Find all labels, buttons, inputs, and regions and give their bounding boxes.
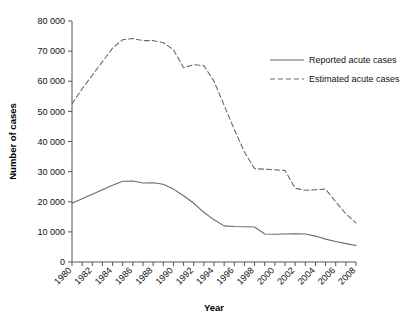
x-axis-tick-label: 1998 [235, 265, 256, 286]
y-axis-tick-label: 0 [60, 257, 65, 267]
x-axis-tick-label: 2000 [255, 265, 276, 286]
legend-label-0: Reported acute cases [309, 55, 397, 65]
y-axis-tick-label: 70 000 [37, 46, 65, 56]
x-axis-tick-label: 1994 [194, 265, 215, 286]
chart-container: 010 00020 00030 00040 00050 00060 00070 … [0, 0, 416, 321]
series-line-estimated [72, 38, 356, 222]
y-axis-tick-label: 20 000 [37, 197, 65, 207]
y-axis-tick-label: 80 000 [37, 16, 65, 26]
y-axis-tick-label: 10 000 [37, 227, 65, 237]
x-axis-tick-label: 1986 [113, 265, 134, 286]
x-axis-tick-label: 2002 [275, 265, 296, 286]
x-axis-tick-label: 1982 [72, 265, 93, 286]
y-axis-tick-label: 60 000 [37, 76, 65, 86]
series-line-reported [72, 181, 356, 245]
x-axis-tick-label: 1980 [52, 265, 73, 286]
y-axis-tick-label: 30 000 [37, 167, 65, 177]
x-axis-tick-label: 1988 [133, 265, 154, 286]
x-axis-title: Year [204, 302, 224, 313]
legend-label-1: Estimated acute cases [309, 74, 400, 84]
y-axis-tick-label: 50 000 [37, 107, 65, 117]
x-axis-tick-label: 2004 [296, 265, 317, 286]
line-chart: 010 00020 00030 00040 00050 00060 00070 … [0, 0, 416, 321]
y-axis-title: Number of cases [7, 103, 18, 180]
x-axis-tick-label: 2006 [316, 265, 337, 286]
x-axis-tick-label: 1984 [93, 265, 114, 286]
x-axis-tick-label: 1992 [174, 265, 195, 286]
x-axis-tick-label: 1996 [214, 265, 235, 286]
y-axis-tick-label: 40 000 [37, 137, 65, 147]
x-axis-tick-label: 2008 [336, 265, 357, 286]
x-axis-tick-label: 1990 [154, 265, 175, 286]
